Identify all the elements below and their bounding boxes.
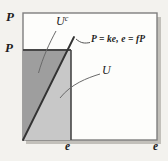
x-axis-label: e — [153, 141, 158, 153]
diagram-canvas — [0, 0, 168, 161]
line-equation-label: P = ke, e = fP — [91, 35, 145, 45]
region-u-label: U — [102, 64, 111, 76]
exchange-rate-tick-label: e — [65, 141, 70, 153]
y-axis-label: P — [6, 10, 14, 23]
region-u-complement-superscript: c — [65, 14, 69, 23]
figure-container: P P P = ke, e = fP Uc U e e — [0, 0, 168, 161]
price-level-tick-label: P — [5, 41, 13, 54]
region-u-complement-base: U — [56, 14, 65, 28]
region-u-complement-label: Uc — [56, 15, 68, 27]
